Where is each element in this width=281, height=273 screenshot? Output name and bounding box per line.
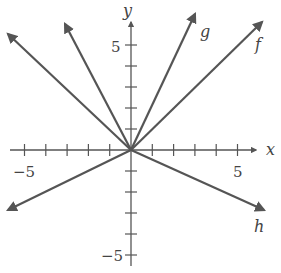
y-tick-label-neg5: −5 — [101, 247, 123, 265]
line-neg2x — [65, 24, 131, 150]
graph: x y −5 5 5 −5 f g h — [0, 0, 281, 273]
x-tick-label-neg5: −5 — [13, 163, 35, 181]
lines — [8, 14, 264, 210]
label-h: h — [254, 217, 264, 236]
label-g: g — [200, 22, 210, 41]
x-tick-label-5: 5 — [233, 163, 243, 181]
x-axis-label: x — [266, 140, 275, 159]
y-tick-label-5: 5 — [111, 38, 121, 56]
label-f: f — [254, 35, 264, 54]
y-axis-label: y — [122, 1, 133, 20]
line-f — [131, 22, 262, 150]
line-h — [131, 150, 264, 210]
line-g — [131, 14, 195, 150]
